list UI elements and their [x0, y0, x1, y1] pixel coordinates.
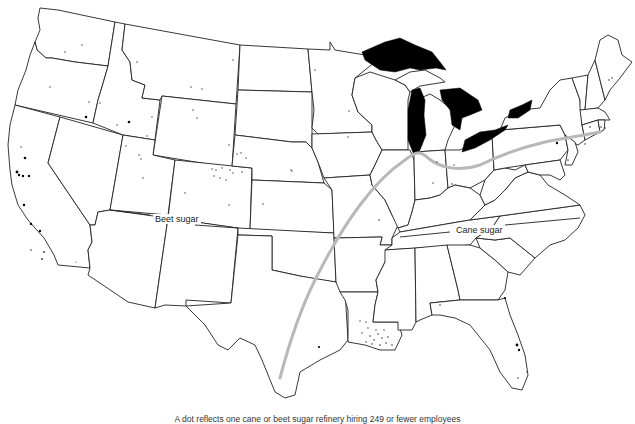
state-new-mexico [155, 218, 238, 308]
state-arizona [88, 210, 168, 308]
cane-sugar-label: Cane sugar [454, 225, 505, 235]
map-caption: A dot reflects one cane or beet sugar re… [0, 414, 635, 424]
beet-sugar-label: Beet sugar [153, 214, 201, 224]
state-kansas [250, 180, 334, 233]
state-florida [430, 298, 528, 390]
lake-superior [362, 38, 446, 72]
state-washington [35, 8, 115, 66]
state-wyoming [153, 96, 236, 168]
state-north-dakota [238, 45, 312, 92]
